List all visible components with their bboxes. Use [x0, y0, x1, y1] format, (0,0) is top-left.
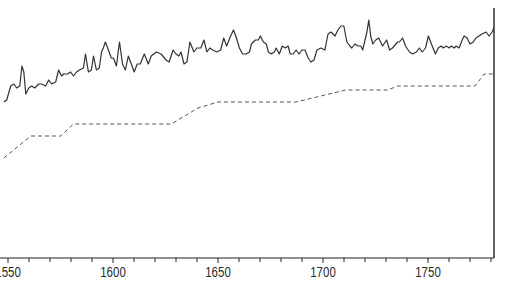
x-tick-label: 1650	[205, 264, 231, 280]
x-tick-label: 1550	[0, 264, 21, 280]
axes	[0, 8, 494, 258]
dashed-trend-line	[4, 74, 498, 158]
x-tick-label: 1750	[415, 264, 441, 280]
series-layer	[4, 20, 515, 158]
solid-data-line	[4, 20, 515, 102]
x-axis-ticks: 15501600165017001750	[0, 258, 491, 280]
chart: 15501600165017001750	[0, 0, 520, 291]
x-tick-label: 1700	[310, 264, 336, 280]
x-tick-label: 1600	[100, 264, 126, 280]
